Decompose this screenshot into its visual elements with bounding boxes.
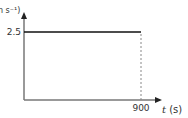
x-tick-label: 900 <box>132 103 149 113</box>
x-axis-label: t (s) <box>162 104 182 115</box>
x-axis-unit: (s) <box>166 104 182 115</box>
y-axis-arrow-icon <box>21 12 27 19</box>
y-axis-label: n s⁻¹) <box>0 6 20 15</box>
x-axis-arrow-icon <box>155 97 162 103</box>
chart: n s⁻¹) 2.5 900 t (s) <box>0 0 188 118</box>
y-tick-label: 2.5 <box>7 27 21 37</box>
